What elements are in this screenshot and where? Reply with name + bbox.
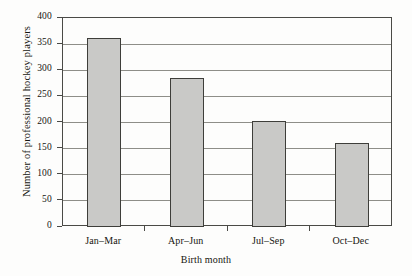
y-axis-title: Number of professional hockey players: [21, 2, 32, 222]
y-axis-tick-label: 400: [12, 11, 52, 21]
plot-area: [62, 17, 392, 226]
x-axis-tick-label: Oct–Dec: [306, 235, 396, 246]
chart-figure: Number of professional hockey players 05…: [0, 0, 412, 276]
x-axis-tick-mark: [227, 226, 228, 231]
x-axis-tick-label: Jan–Mar: [58, 235, 148, 246]
bar: [170, 78, 204, 227]
x-axis-tick-mark: [144, 226, 145, 231]
y-axis-tick-label: 0: [12, 220, 52, 230]
x-axis-tick-label: Apr–Jun: [141, 235, 231, 246]
x-axis-title: Birth month: [0, 254, 412, 265]
y-axis-tick-label: 150: [12, 142, 52, 152]
bar: [252, 121, 286, 227]
y-axis-tick-label: 50: [12, 194, 52, 204]
bar: [87, 38, 121, 227]
y-axis-tick-label: 100: [12, 168, 52, 178]
x-axis-tick-label: Jul–Sep: [223, 235, 313, 246]
bar: [335, 143, 369, 227]
y-axis-tick-label: 250: [12, 89, 52, 99]
y-axis-tick-label: 200: [12, 116, 52, 126]
x-axis-tick-mark: [309, 226, 310, 231]
y-axis-tick-label: 350: [12, 37, 52, 47]
y-axis-tick-label: 300: [12, 63, 52, 73]
